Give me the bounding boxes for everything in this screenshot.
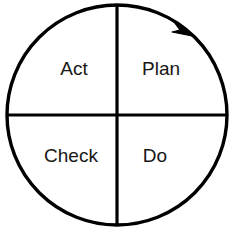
quadrant-label-plan: Plan bbox=[142, 58, 180, 79]
pdca-diagram-canvas: Act Plan Check Do bbox=[0, 0, 233, 234]
quadrant-label-act: Act bbox=[60, 58, 88, 79]
quadrant-label-check: Check bbox=[44, 145, 98, 166]
pdca-cycle-diagram: Act Plan Check Do bbox=[0, 0, 233, 234]
quadrant-label-do: Do bbox=[143, 145, 167, 166]
